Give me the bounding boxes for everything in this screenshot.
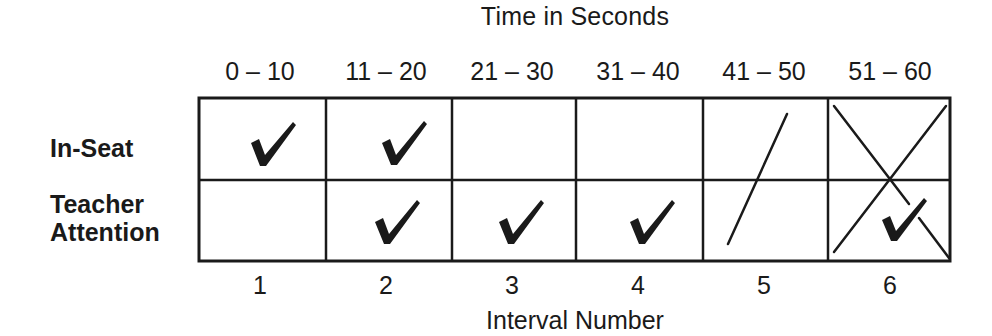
bottom-axis-title: Interval Number [0,306,992,335]
interval-number-6: 6 [827,271,953,300]
interval-number-3: 3 [449,271,575,300]
interval-number-4: 4 [575,271,701,300]
check-icon [382,121,427,165]
cross-icon-stroke-a [834,106,909,204]
check-icon [251,122,296,166]
interval-number-2: 2 [323,271,449,300]
checkmarks [251,121,927,244]
check-icon [375,200,420,244]
cross-icon-stroke-b [919,218,949,258]
interval-number-1: 1 [197,271,323,300]
check-icon [630,200,675,244]
check-icon [499,200,544,244]
interval-number-5: 5 [701,271,827,300]
